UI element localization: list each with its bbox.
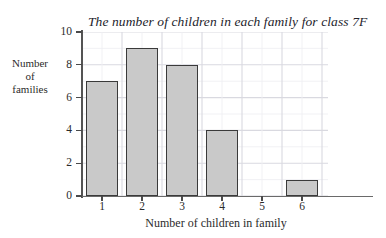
x-axis-line <box>81 196 373 198</box>
x-axis-label: Number of children in family <box>78 216 354 231</box>
y-tick-label-4: 4 <box>46 123 72 135</box>
y-axis-label-line-2: of <box>4 70 56 83</box>
y-tick-mark-6 <box>76 97 82 98</box>
y-tick-mark-8 <box>76 64 82 65</box>
y-axis-line <box>81 30 83 198</box>
bars-layer <box>82 32 354 196</box>
x-tick-label-4: 4 <box>210 200 234 212</box>
y-tick-label-6: 6 <box>46 91 72 103</box>
x-tick-label-6: 6 <box>290 200 314 212</box>
plot-area <box>82 32 354 196</box>
chart-title: The number of children in each family fo… <box>88 14 368 30</box>
y-tick-mark-4 <box>76 130 82 131</box>
y-tick-label-2: 2 <box>46 156 72 168</box>
y-tick-mark-2 <box>76 163 82 164</box>
bar-6 <box>286 180 318 196</box>
x-tick-label-2: 2 <box>130 200 154 212</box>
y-tick-mark-0 <box>76 195 82 196</box>
y-tick-label-0: 0 <box>46 189 72 201</box>
bar-4 <box>206 130 238 196</box>
x-tick-label-5: 5 <box>250 200 274 212</box>
x-tick-label-3: 3 <box>170 200 194 212</box>
y-tick-mark-10 <box>76 31 82 32</box>
bar-3 <box>166 65 198 196</box>
bar-chart: The number of children in each family fo… <box>0 0 386 238</box>
y-tick-label-8: 8 <box>46 58 72 70</box>
bar-1 <box>86 81 118 196</box>
bar-2 <box>126 48 158 196</box>
y-tick-label-10: 10 <box>46 25 72 37</box>
x-tick-label-1: 1 <box>90 200 114 212</box>
